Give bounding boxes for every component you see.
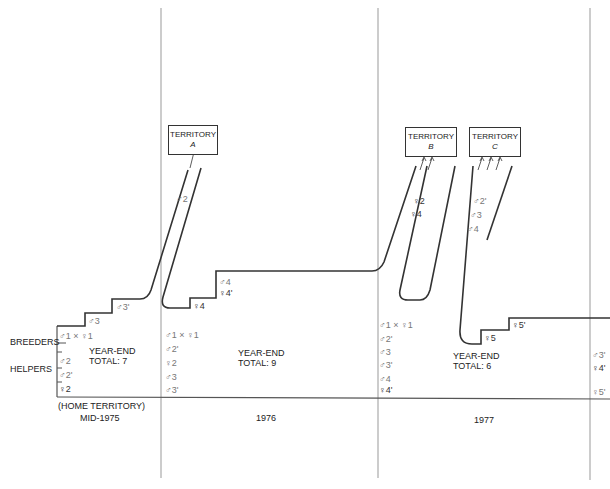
- roster-1975-2: ♂2': [59, 370, 72, 380]
- year-end-1976-line2: TOTAL: 9: [238, 358, 285, 368]
- step-1975-a: ♂3: [88, 316, 100, 326]
- roster-1976-4: ♂3': [165, 385, 178, 395]
- roster-1977-3: ♂3': [379, 360, 392, 370]
- territory-b-title: TERRITORY: [408, 132, 454, 141]
- disperser-b-0: ♀2: [413, 196, 425, 206]
- step-1975-b: ♂3': [116, 302, 129, 312]
- step-1977-a: ♀5: [484, 333, 496, 343]
- roster-end-0: ♂3': [592, 350, 605, 360]
- roster-1977-1: ♂2': [379, 334, 392, 344]
- step-1976-b: ♂4: [219, 277, 231, 287]
- year-end-1976-line1: YEAR-END: [238, 348, 285, 358]
- roster-end-2: ♀5': [592, 387, 605, 397]
- roster-1975-0: ♂1 × ♀1: [59, 331, 93, 341]
- territory-c-box: TERRITORY C: [469, 127, 521, 157]
- period-1976: 1976: [256, 413, 276, 423]
- territory-b-box: TERRITORY B: [405, 127, 457, 157]
- year-end-1977: YEAR-END TOTAL: 6: [453, 351, 500, 371]
- territory-c-letter: C: [470, 142, 520, 152]
- roster-1977-0: ♂1 × ♀1: [379, 320, 413, 330]
- year-end-1977-line2: TOTAL: 6: [453, 361, 500, 371]
- roster-1976-2: ♀2: [165, 358, 177, 368]
- period-1977: 1977: [474, 415, 494, 425]
- territory-a-box: TERRITORY A: [168, 125, 218, 155]
- step-1977-b: ♀5': [512, 320, 525, 330]
- disperser-c-2: ♂4: [467, 224, 479, 234]
- roster-1975-1: ♂2: [59, 356, 71, 366]
- year-end-1975: YEAR-END TOTAL: 7: [89, 346, 136, 366]
- territory-c-title: TERRITORY: [472, 132, 518, 141]
- roster-1976-3: ♂3: [165, 372, 177, 382]
- roster-1976-0: ♂1 × ♀1: [165, 330, 199, 340]
- year-end-1975-line2: TOTAL: 7: [89, 356, 136, 366]
- territory-b-letter: B: [406, 142, 456, 152]
- year-end-1976: YEAR-END TOTAL: 9: [238, 348, 285, 368]
- roster-1975-3: ♀2: [59, 384, 71, 394]
- step-1976-c: ♀4': [219, 288, 232, 298]
- period-mid-1975: MID-1975: [80, 413, 120, 423]
- territory-a-title: TERRITORY: [170, 130, 216, 139]
- territory-a-letter: A: [169, 140, 217, 150]
- roster-1977-2: ♂3: [379, 347, 391, 357]
- helpers-label: HELPERS: [10, 364, 52, 374]
- disperser-a-0: ♂2: [176, 194, 188, 204]
- disperser-b-1: ♀4: [410, 209, 422, 219]
- step-1976-a: ♀4: [193, 301, 205, 311]
- disperser-c-1: ♂3: [470, 210, 482, 220]
- roster-end-1: ♀4': [592, 363, 605, 373]
- baseline: [57, 397, 610, 399]
- disperser-c-0: ♂2': [473, 196, 486, 206]
- breeders-label: BREEDERS: [10, 337, 60, 347]
- home-territory-label: (HOME TERRITORY): [58, 401, 145, 411]
- roster-1976-1: ♂2': [165, 344, 178, 354]
- year-end-1977-line1: YEAR-END: [453, 351, 500, 361]
- year-end-1975-line1: YEAR-END: [89, 346, 136, 356]
- roster-1977-5: ♀4': [379, 385, 392, 395]
- roster-1977-4: ♂4: [379, 374, 391, 384]
